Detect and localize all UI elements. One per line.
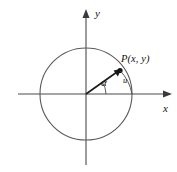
y-axis-label: y xyxy=(95,8,100,19)
x-axis-arrowhead xyxy=(163,91,172,98)
point-p-coords: (x, y) xyxy=(128,53,150,64)
unit-circle-figure: y x P(x, y) α u xyxy=(0,0,177,172)
point-p-label: P(x, y) xyxy=(121,54,150,65)
angle-alpha-label: α xyxy=(101,77,107,88)
figure-canvas xyxy=(0,0,177,172)
arc-u-label: u xyxy=(123,76,127,85)
y-axis-arrowhead xyxy=(83,9,90,18)
x-axis-label: x xyxy=(163,103,168,114)
